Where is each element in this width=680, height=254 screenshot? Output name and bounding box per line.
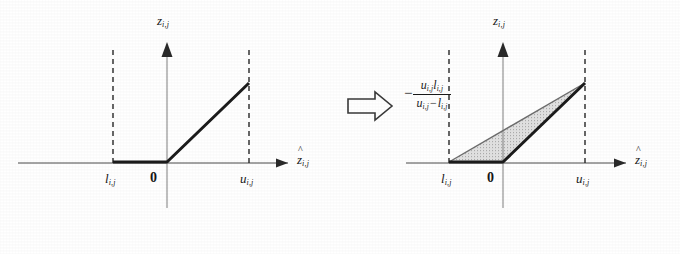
- right-panel-plot: [406, 42, 626, 208]
- right-origin-tick-label: 0: [487, 171, 494, 185]
- formula-numerator: ui,jli,j: [418, 78, 446, 94]
- right-y-axis-label: zi,j: [493, 14, 505, 29]
- left-lower-bound-tick-label: li,j: [105, 172, 116, 187]
- left-upper-bound-tick-label: ui,j: [240, 172, 253, 187]
- y-axis-arrowhead: [162, 42, 173, 57]
- plot-canvas: [0, 0, 680, 254]
- left-y-axis-label: zi,j: [157, 14, 169, 29]
- right-upper-bound-tick-label: ui,j: [576, 172, 589, 187]
- relu-curve: [113, 83, 249, 162]
- relu-relaxation-figure: zi,j z^i,j li,j 0 ui,j zi,j z^i,j li,j 0…: [0, 0, 680, 254]
- formula-denominator: ui,j−li,j: [413, 95, 450, 111]
- right-x-axis-label: z^i,j: [635, 153, 647, 168]
- x-axis-arrowhead: [614, 159, 626, 168]
- y-axis-arrowhead: [498, 42, 509, 57]
- upper-bound-intercept-formula: − ui,jli,j ui,j−li,j: [404, 78, 451, 111]
- formula-minus-sign: −: [404, 85, 412, 104]
- right-lower-bound-tick-label: li,j: [441, 172, 452, 187]
- formula-fraction: ui,jli,j ui,j−li,j: [413, 78, 450, 111]
- left-origin-tick-label: 0: [150, 171, 157, 185]
- block-right-arrow-icon: [348, 92, 392, 120]
- x-axis-arrowhead: [276, 159, 288, 168]
- left-x-axis-label: z^i,j: [297, 153, 309, 168]
